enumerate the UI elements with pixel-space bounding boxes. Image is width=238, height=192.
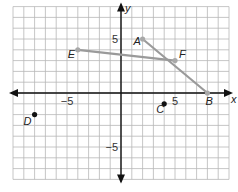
points: ABCDEF [24,35,213,127]
tick-label-x-5: 5 [172,95,178,107]
y-axis-label: y [124,2,132,14]
point-label-A: A [133,35,141,47]
x-axis-left-arrow-icon [9,89,18,97]
tick-label-x-neg5: −5 [61,95,74,107]
axes: xy [9,2,237,184]
point-F [172,58,177,63]
x-axis-label: x [230,93,237,105]
y-axis-up-arrow-icon [117,3,125,12]
coordinate-plane: xy −555−5 ABCDEF [0,0,238,192]
tick-label-y-neg5: −5 [105,141,118,153]
point-E [75,47,80,52]
point-label-D: D [24,115,32,127]
point-label-C: C [156,103,164,115]
point-D [32,112,37,117]
point-label-B: B [205,95,212,107]
tick-label-y-5: 5 [112,33,118,45]
point-label-E: E [68,48,76,60]
y-axis-down-arrow-icon [117,174,125,183]
